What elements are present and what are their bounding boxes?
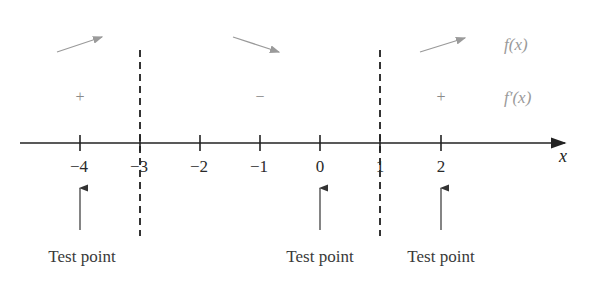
sign-plus-right: + — [436, 88, 445, 105]
sign-plus-left: + — [75, 88, 84, 105]
tick-label: 0 — [316, 157, 325, 176]
tick-label: −3 — [130, 157, 148, 176]
tick-label: −4 — [70, 157, 89, 176]
test-point-label: Test point — [286, 247, 354, 266]
fprime-row-label: f′(x) — [504, 88, 532, 107]
test-point-label: Test point — [407, 247, 475, 266]
trend-arrow-decreasing-middle — [233, 37, 279, 52]
x-axis-label: x — [558, 146, 567, 166]
tick-label: −1 — [250, 157, 268, 176]
trend-arrow-increasing-right — [420, 38, 465, 52]
test-point-label: Test point — [48, 247, 116, 266]
sign-chart: + − + f(x) f′(x) x −4 −3 −2 −1 0 1 2 Tes… — [0, 0, 589, 283]
trend-arrow-increasing-left — [57, 37, 102, 52]
sign-minus-middle: − — [255, 88, 264, 105]
f-row-label: f(x) — [504, 35, 528, 54]
tick-label: 1 — [376, 157, 385, 176]
tick-label: 2 — [437, 157, 446, 176]
tick-label: −2 — [190, 157, 208, 176]
